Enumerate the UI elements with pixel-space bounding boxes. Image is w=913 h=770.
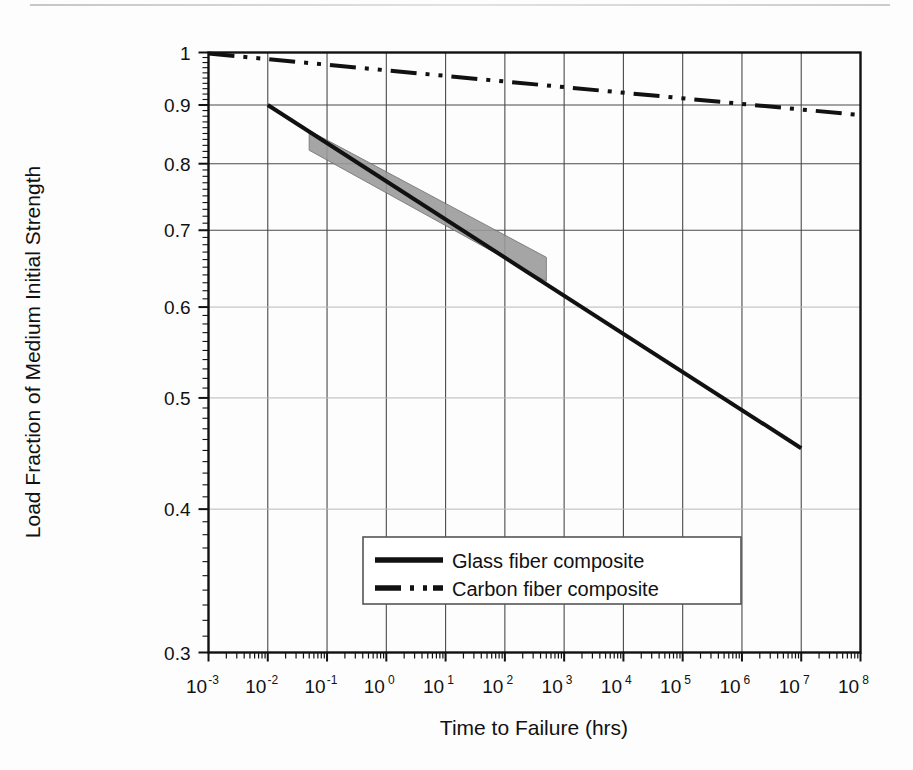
- y-axis-title: Load Fraction of Medium Initial Strength: [21, 166, 44, 538]
- svg-text:10: 10: [542, 676, 563, 697]
- x-tick-label: 102: [482, 673, 513, 697]
- svg-text:10: 10: [482, 676, 503, 697]
- x-tick-label: 100: [364, 673, 395, 697]
- legend-label-carbon: Carbon fiber composite: [452, 578, 659, 600]
- svg-text:3: 3: [566, 673, 573, 687]
- x-tick-label: 104: [601, 673, 632, 697]
- x-tick-label: 10-2: [245, 673, 278, 697]
- x-tick-labels: 10-310-210-1100101102103104105106107108: [186, 673, 869, 697]
- y-tick-label: 0.5: [164, 388, 190, 409]
- x-tick-label: 103: [542, 673, 573, 697]
- svg-text:-3: -3: [208, 673, 219, 687]
- y-tick-label: 0.9: [164, 95, 190, 116]
- y-tick-label: 0.3: [164, 643, 190, 664]
- x-tick-label: 107: [779, 673, 810, 697]
- svg-text:7: 7: [803, 673, 810, 687]
- x-tick-label: 108: [838, 673, 869, 697]
- y-tick-labels: 0.30.40.50.60.70.80.91: [164, 43, 191, 664]
- svg-text:4: 4: [625, 673, 632, 687]
- svg-text:10: 10: [719, 676, 740, 697]
- svg-text:1: 1: [447, 673, 454, 687]
- y-tick-label: 1: [180, 43, 191, 64]
- y-tick-label: 0.7: [164, 220, 190, 241]
- svg-text:6: 6: [744, 673, 751, 687]
- svg-text:-1: -1: [327, 673, 338, 687]
- svg-text:10: 10: [660, 676, 681, 697]
- chart-legend: Glass fiber composite Carbon fiber compo…: [363, 537, 741, 604]
- x-tick-label: 106: [719, 673, 750, 697]
- svg-text:-2: -2: [267, 673, 278, 687]
- x-tick-label: 105: [660, 673, 691, 697]
- svg-text:10: 10: [186, 676, 207, 697]
- svg-text:10: 10: [364, 676, 385, 697]
- x-tick-label: 10-3: [186, 673, 219, 697]
- x-tick-label: 10-1: [304, 673, 337, 697]
- legend-label-glass: Glass fiber composite: [452, 550, 644, 572]
- y-tick-label: 0.6: [164, 297, 190, 318]
- x-axis-title: Time to Failure (hrs): [440, 716, 628, 739]
- svg-text:10: 10: [245, 676, 266, 697]
- svg-text:5: 5: [684, 673, 691, 687]
- x-tick-label: 101: [423, 673, 454, 697]
- svg-text:10: 10: [601, 676, 622, 697]
- log-log-chart: 10-310-210-1100101102103104105106107108 …: [0, 0, 913, 770]
- svg-text:2: 2: [507, 673, 514, 687]
- y-tick-label: 0.8: [164, 154, 190, 175]
- figure-canvas: 10-310-210-1100101102103104105106107108 …: [0, 0, 913, 770]
- y-tick-label: 0.4: [164, 499, 191, 520]
- svg-text:8: 8: [862, 673, 869, 687]
- svg-text:0: 0: [388, 673, 395, 687]
- svg-text:10: 10: [838, 676, 859, 697]
- svg-text:10: 10: [779, 676, 800, 697]
- svg-text:10: 10: [423, 676, 444, 697]
- svg-text:10: 10: [304, 676, 325, 697]
